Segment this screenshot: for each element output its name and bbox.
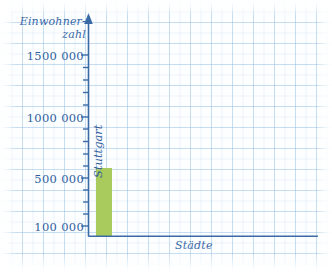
y-axis-ticks — [81, 55, 89, 226]
y-axis-arrow-icon — [84, 13, 93, 24]
axes-layer — [0, 0, 332, 275]
chart-figure: Einwohner- zahl Städte 1500 000 1000 000… — [0, 0, 332, 275]
